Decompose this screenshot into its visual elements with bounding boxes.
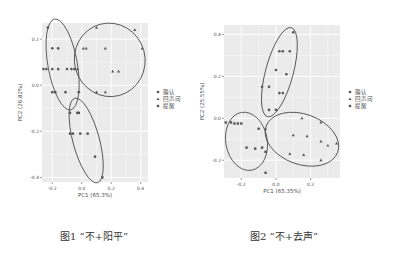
data-point-circle: [261, 86, 264, 89]
x-tick-label: -0.2: [237, 182, 246, 187]
y-tick-label: 0.0: [214, 116, 221, 121]
legend-triangle-icon: [349, 97, 352, 100]
x-tick-label: -0.2: [48, 186, 57, 191]
data-point-circle: [51, 68, 54, 71]
data-point-square: [264, 151, 266, 153]
y-tick-label: -0.2: [30, 129, 39, 134]
x-axis-label: PC1 (65.35%): [263, 188, 301, 194]
data-point-circle: [275, 69, 278, 72]
data-point-circle: [288, 50, 291, 53]
y-tick-label: 0.2: [32, 37, 39, 42]
data-point-circle: [275, 109, 278, 112]
x-tick-label: 0.0: [272, 182, 279, 187]
data-point-circle: [45, 68, 48, 71]
data-point-circle: [285, 73, 288, 76]
y-tick-label: 0.2: [214, 74, 221, 79]
data-point-square: [94, 155, 96, 157]
data-point-circle: [268, 109, 271, 112]
plot-panel: [42, 23, 148, 182]
figure-1-caption: 图1 “不+阳平”: [60, 228, 128, 243]
data-point-square: [69, 112, 71, 114]
x-axis-label: PC1 (65.3%): [78, 192, 112, 198]
data-point-square: [240, 122, 242, 124]
legend-label: 回声问: [163, 95, 181, 103]
data-point-circle: [268, 86, 271, 89]
pca-chart-2: -0.20.00.20.40.20.0-0.2PC1 (65.35%)PC2 (…: [200, 0, 396, 200]
x-tick-label: 0.0: [78, 186, 85, 191]
data-point-square: [101, 176, 103, 178]
data-point-square: [237, 122, 239, 124]
data-point-circle: [47, 26, 50, 29]
data-point-square: [261, 146, 263, 148]
figure-2-caption: 图2 “不+去声”: [250, 228, 318, 243]
scatter-plot-1: -0.20.00.20.40.20.0-0.2-0.4PC1 (65.3%)PC…: [0, 0, 200, 200]
legend-label: 提醒: [163, 102, 175, 110]
data-point-circle: [66, 68, 69, 71]
data-point-circle: [57, 68, 60, 71]
y-tick-label: -0.4: [30, 175, 39, 180]
y-tick-label: 0.4: [214, 32, 221, 37]
legend-square-icon: [157, 105, 159, 107]
data-point-circle: [282, 50, 285, 53]
legend-label: 回声问: [355, 95, 373, 103]
y-tick-label: -0.2: [212, 158, 221, 163]
data-point-circle: [57, 47, 60, 50]
x-tick-label: 0.2: [108, 186, 115, 191]
data-point-square: [264, 172, 266, 174]
legend-label: 提醒: [355, 102, 367, 110]
data-point-square: [72, 132, 74, 134]
data-point-circle: [292, 31, 295, 34]
legend-triangle-icon: [157, 97, 160, 100]
data-point-circle: [54, 91, 57, 94]
y-axis-label: PC2 (25.55%): [200, 83, 205, 121]
data-point-square: [233, 122, 235, 124]
data-point-square: [79, 132, 81, 134]
legend-circle-icon: [349, 91, 352, 94]
data-point-square: [257, 128, 259, 130]
x-tick-label: 0.4: [137, 186, 144, 191]
data-point-square: [69, 132, 71, 134]
x-tick-label: 0.2: [307, 182, 314, 187]
legend-label: 确认: [355, 88, 367, 96]
data-point-square: [230, 121, 232, 123]
data-point-circle: [73, 68, 76, 71]
data-point-square: [245, 146, 247, 148]
data-point-circle: [51, 47, 54, 50]
data-point-circle: [42, 68, 45, 71]
pca-chart-1: -0.20.00.20.40.20.0-0.2-0.4PC1 (65.3%)PC…: [0, 0, 200, 200]
data-point-circle: [278, 50, 281, 53]
legend-label: 确认: [163, 88, 175, 96]
y-axis-label: PC2 (26.82%): [17, 84, 23, 122]
data-point-square: [254, 147, 256, 149]
data-point-circle: [282, 92, 285, 95]
data-point-circle: [70, 68, 73, 71]
data-point-circle: [51, 91, 54, 94]
data-point-circle: [64, 91, 67, 94]
data-point-square: [225, 121, 227, 123]
data-point-circle: [278, 92, 281, 95]
y-tick-label: 0.0: [32, 83, 39, 88]
scatter-plot-2: -0.20.00.20.40.20.0-0.2PC1 (65.35%)PC2 (…: [200, 0, 396, 200]
legend-square-icon: [349, 105, 351, 107]
data-point-square: [78, 112, 80, 114]
data-point-circle: [78, 91, 81, 94]
data-point-square: [86, 132, 88, 134]
legend-circle-icon: [157, 91, 160, 94]
